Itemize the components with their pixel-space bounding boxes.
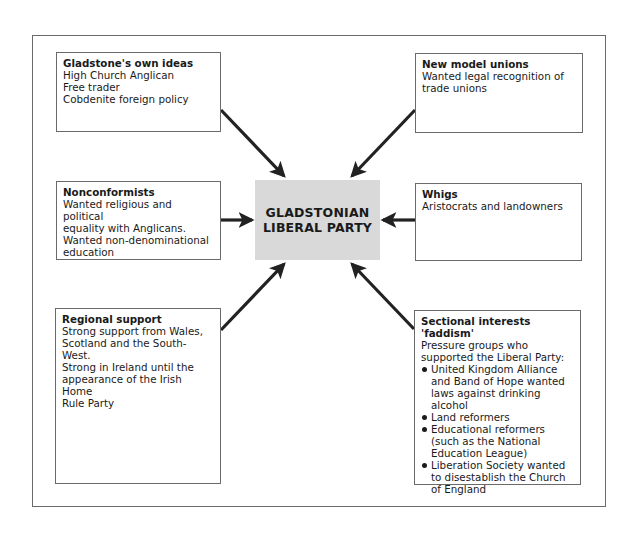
box-line: Free trader (63, 81, 214, 93)
box-line: Aristocrats and landowners (422, 200, 575, 212)
box-line: education (63, 246, 214, 258)
box-line: supported the Liberal Party: (421, 351, 574, 363)
box-regional-support: Regional support Strong support from Wal… (55, 308, 221, 484)
box-line: equality with Anglicans. (63, 222, 214, 234)
box-line: Wanted religious and political (63, 198, 214, 222)
center-line-2: LIBERAL PARTY (263, 220, 372, 235)
box-title: Sectional interests (421, 315, 574, 327)
box-line: Strong in Ireland until the (62, 361, 214, 373)
arrow-gladstone (221, 110, 284, 176)
list-item: United Kingdom Alliance and Band of Hope… (421, 363, 574, 411)
box-nonconformists: Nonconformists Wanted religious and poli… (56, 181, 221, 260)
box-title: New model unions (422, 58, 576, 70)
box-title: 'faddism' (421, 327, 574, 339)
pressure-group-list: United Kingdom Alliance and Band of Hope… (421, 363, 574, 495)
box-title: Gladstone's own ideas (63, 57, 214, 69)
box-line: Pressure groups who (421, 339, 574, 351)
box-title: Whigs (422, 188, 575, 200)
box-gladstone-own-ideas: Gladstone's own ideas High Church Anglic… (56, 52, 221, 132)
center-line-1: GLADSTONIAN (266, 205, 370, 220)
box-line: Scotland and the South-West. (62, 337, 214, 361)
box-line: Wanted non-denominational (63, 234, 214, 246)
box-title: Regional support (62, 313, 214, 325)
box-line: Cobdenite foreign policy (63, 93, 214, 105)
box-new-model-unions: New model unions Wanted legal recognitio… (415, 53, 583, 133)
box-line: Wanted legal recognition of (422, 70, 576, 82)
box-line: appearance of the Irish Home (62, 373, 214, 397)
box-line: trade unions (422, 82, 576, 94)
list-item: Land reformers (421, 411, 574, 423)
box-sectional-interests: Sectional interests 'faddism' Pressure g… (414, 310, 581, 485)
arrow-sectional (352, 264, 414, 329)
box-title: Nonconformists (63, 186, 214, 198)
box-line: Rule Party (62, 397, 214, 409)
box-whigs: Whigs Aristocrats and landowners (415, 183, 582, 261)
box-line: Strong support from Wales, (62, 325, 214, 337)
box-line: High Church Anglican (63, 69, 214, 81)
central-node-gladstonian-liberal-party: GLADSTONIAN LIBERAL PARTY (255, 180, 380, 260)
list-item: Liberation Society wanted to disestablis… (421, 459, 574, 495)
arrow-regional (221, 264, 284, 330)
arrow-unions (352, 110, 415, 176)
list-item: Educational reformers (such as the Natio… (421, 423, 574, 459)
